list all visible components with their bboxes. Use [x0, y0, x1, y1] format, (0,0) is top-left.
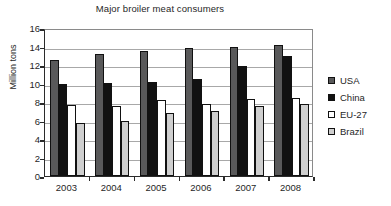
- bar-chart: Major broiler meat consumers Million ton…: [0, 0, 391, 206]
- legend-swatch-icon: [328, 111, 335, 118]
- bar-brazil-2003: [76, 123, 85, 176]
- bar-brazil-2005: [166, 113, 175, 176]
- y-axis-tick-label: 8: [18, 98, 40, 108]
- gridline: [45, 49, 312, 50]
- bar-china-2008: [283, 56, 292, 176]
- bar-eu-27-2005: [157, 100, 166, 176]
- y-axis-tick-label: 6: [18, 117, 40, 127]
- legend-item-label: Brazil: [340, 127, 364, 137]
- x-axis-tick-mark: [313, 177, 315, 181]
- y-axis-tick-label: 10: [18, 80, 40, 90]
- bar-brazil-2008: [300, 104, 309, 176]
- bar-usa-2005: [140, 51, 149, 176]
- gridline: [45, 141, 312, 142]
- x-axis-tick-label: 2008: [265, 183, 317, 193]
- chart-legend: USAChinaEU-27Brazil: [328, 72, 390, 140]
- y-axis-tick-label: 2: [18, 154, 40, 164]
- legend-item-label: USA: [340, 76, 360, 86]
- bar-eu-27-2008: [292, 98, 301, 176]
- legend-swatch-icon: [328, 128, 335, 135]
- gridline: [45, 123, 312, 124]
- legend-item-label: EU-27: [340, 110, 367, 120]
- bar-brazil-2007: [255, 106, 264, 176]
- y-axis-tick-label: 16: [18, 24, 40, 34]
- x-axis-tick-mark: [89, 177, 91, 181]
- bar-china-2004: [104, 83, 113, 176]
- bar-usa-2008: [274, 45, 283, 176]
- bar-china-2006: [193, 79, 202, 176]
- x-axis-tick-mark: [179, 177, 181, 181]
- y-axis-tick-label: 14: [18, 43, 40, 53]
- bar-eu-27-2004: [112, 106, 121, 176]
- legend-item-eu-27[interactable]: EU-27: [328, 106, 390, 123]
- y-axis-tick-mark: [40, 177, 44, 179]
- gridline: [45, 67, 312, 68]
- y-axis-tick-label: 4: [18, 135, 40, 145]
- gridline: [45, 104, 312, 105]
- legend-item-china[interactable]: China: [328, 89, 390, 106]
- bar-usa-2004: [95, 54, 104, 176]
- legend-item-label: China: [340, 93, 365, 103]
- bar-china-2007: [238, 66, 247, 176]
- bar-usa-2003: [50, 60, 59, 176]
- x-axis-tick-mark: [268, 177, 270, 181]
- legend-item-usa[interactable]: USA: [328, 72, 390, 89]
- y-axis-tick-label: 0: [18, 172, 40, 182]
- bar-brazil-2004: [121, 121, 130, 177]
- bar-china-2003: [59, 84, 68, 177]
- bar-eu-27-2007: [247, 99, 256, 176]
- chart-title: Major broiler meat consumers: [0, 3, 320, 14]
- bar-eu-27-2003: [67, 105, 76, 176]
- x-axis-tick-mark: [223, 177, 225, 181]
- y-axis-tick-label: 12: [18, 61, 40, 71]
- bar-usa-2006: [185, 48, 194, 176]
- y-axis-title: Million tons: [8, 22, 18, 112]
- legend-item-brazil[interactable]: Brazil: [328, 123, 390, 140]
- x-axis-tick-mark: [134, 177, 136, 181]
- bar-eu-27-2006: [202, 104, 211, 176]
- legend-swatch-icon: [328, 94, 335, 101]
- bar-brazil-2006: [211, 111, 220, 176]
- gridline: [45, 86, 312, 87]
- gridline: [45, 160, 312, 161]
- bar-china-2005: [148, 82, 157, 176]
- legend-swatch-icon: [328, 77, 335, 84]
- bar-usa-2007: [230, 47, 239, 176]
- plot-area: [44, 29, 313, 177]
